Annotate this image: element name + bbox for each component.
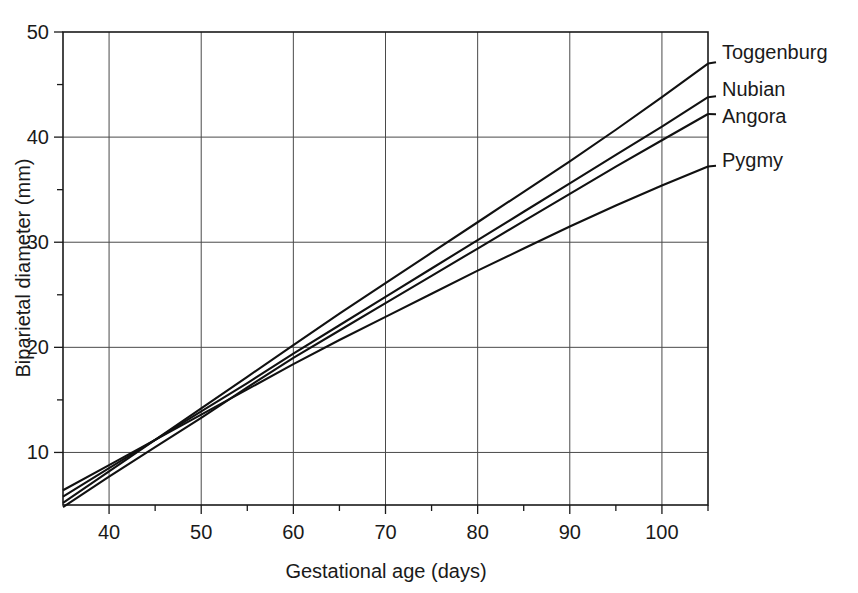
y-tick-label: 50 xyxy=(27,21,49,43)
y-tick-label: 40 xyxy=(27,126,49,148)
series-leader-nubian xyxy=(708,96,716,97)
series-label-pygmy: Pygmy xyxy=(722,149,783,171)
series-label-layer: ToggenburgNubianAngoraPygmy xyxy=(722,41,828,171)
curve-layer xyxy=(63,62,716,507)
series-label-toggenburg: Toggenburg xyxy=(722,41,828,63)
x-tick-label: 90 xyxy=(559,521,581,543)
x-tick-label: 70 xyxy=(374,521,396,543)
series-label-nubian: Nubian xyxy=(722,78,785,100)
tick-label-layer: 4050607080901001020304050 xyxy=(27,21,679,543)
series-label-angora: Angora xyxy=(722,105,787,127)
x-tick-label: 80 xyxy=(467,521,489,543)
series-leader-toggenburg xyxy=(708,62,716,63)
x-tick-label: 100 xyxy=(645,521,678,543)
series-leader-pygmy xyxy=(708,166,716,167)
grid-layer xyxy=(63,32,708,505)
x-axis-title: Gestational age (days) xyxy=(285,560,486,582)
y-tick-label: 10 xyxy=(27,441,49,463)
x-tick-label: 60 xyxy=(282,521,304,543)
y-axis-title: Biparietal diameter (mm) xyxy=(12,159,34,378)
x-tick-label: 40 xyxy=(98,521,120,543)
x-tick-label: 50 xyxy=(190,521,212,543)
chart-figure: ToggenburgNubianAngoraPygmy 405060708090… xyxy=(0,0,858,593)
biparietal-diameter-growth-chart: ToggenburgNubianAngoraPygmy 405060708090… xyxy=(0,0,858,593)
